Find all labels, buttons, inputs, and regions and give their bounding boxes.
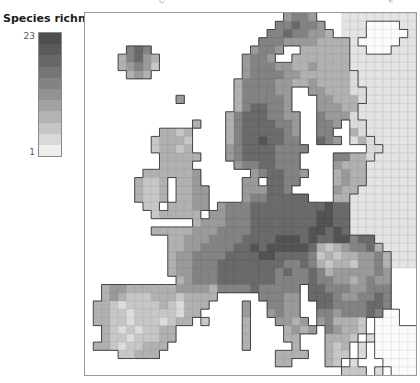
map-panel — [84, 12, 417, 376]
legend-color-band — [39, 78, 61, 89]
legend-max-label: 23 — [16, 31, 35, 41]
legend-color-band — [39, 100, 61, 111]
europe-map-canvas — [85, 13, 416, 375]
legend-color-band — [39, 44, 61, 55]
legend-color-band — [39, 67, 61, 78]
legend-color-band — [39, 111, 61, 122]
legend-color-band — [39, 123, 61, 134]
cropped-text-fragment-icon — [158, 0, 168, 5]
legend-min-label: 1 — [16, 147, 35, 157]
legend-color-band — [39, 134, 61, 145]
legend-color-band — [39, 89, 61, 100]
legend-colorbar — [38, 32, 62, 157]
species-richness-figure: Species richness 23 1 — [0, 0, 420, 383]
legend-color-band — [39, 55, 61, 66]
legend-color-band — [39, 33, 61, 44]
cropped-text-fragment-icon — [386, 0, 396, 5]
legend-color-band — [39, 145, 61, 156]
